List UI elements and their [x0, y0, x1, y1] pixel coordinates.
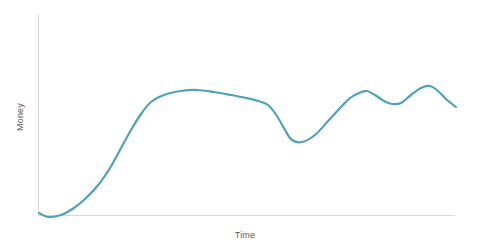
y-axis-label: Money — [15, 103, 25, 131]
data-series-money — [39, 86, 456, 217]
chart-plot-area — [0, 0, 481, 252]
line-chart: Money Time — [0, 0, 481, 252]
x-axis-label: Time — [235, 230, 255, 240]
